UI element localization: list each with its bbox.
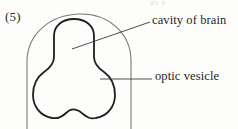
leader-line-cavity xyxy=(72,22,150,49)
label-optic-vesicle: optic vesicle xyxy=(155,69,219,84)
figure-number: (5) xyxy=(5,9,21,25)
brain-vesicle-contour xyxy=(33,19,115,118)
label-cavity-of-brain: cavity of brain xyxy=(152,13,226,28)
figure-container: gy y (5) cavity of brain optic vesicle xyxy=(0,0,238,129)
